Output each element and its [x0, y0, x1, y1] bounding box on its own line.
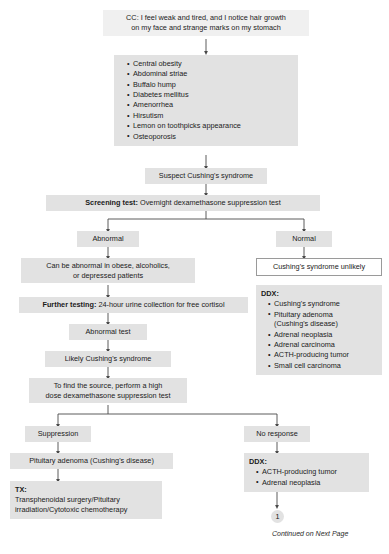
ddx-normal-list: Cushing's syndrome Pituitary adenoma(Cus… — [261, 299, 377, 370]
list-item: Pituitary adenoma(Cushing's disease) — [268, 310, 377, 330]
chief-complaint-line1: CC: I feel weak and tired, and I notice … — [126, 13, 286, 22]
can-be-abnormal-line1: Can be abnormal in obese, alcoholics, — [46, 261, 170, 270]
list-item: Central obesity — [127, 59, 292, 69]
treatment-line1: Transphenoidal surgery/Pituitary — [15, 495, 120, 504]
list-item: Adrenal neoplasia — [256, 478, 364, 488]
list-item: Adrenal carcinoma — [268, 340, 377, 350]
list-item: Lemon on toothpicks appearance — [127, 121, 292, 131]
screening-bold-label: Screening test: — [85, 198, 138, 207]
normal-branch-box: Normal — [276, 231, 332, 247]
suspect-label: Suspect Cushing's syndrome — [159, 171, 253, 180]
ddx-noresponse-header: DDX: — [249, 457, 364, 467]
list-item: Small cell carcinoma — [268, 361, 377, 371]
list-item: Abdominal striae — [127, 69, 292, 79]
page-connector-1: 1 — [271, 510, 284, 523]
list-item: ACTH-producing tumor — [256, 467, 364, 477]
connector-label: 1 — [275, 512, 279, 521]
ddx-normal-header: DDX: — [261, 289, 377, 299]
flowchart-canvas: CC: I feel weak and tired, and I notice … — [0, 0, 389, 554]
list-item: Adrenal neoplasia — [268, 330, 377, 340]
further-testing-box: Further testing: 24-hour urine collectio… — [19, 297, 248, 313]
abnormal-test-label: Abnormal test — [85, 327, 130, 336]
suppression-label: Suppression — [38, 429, 79, 438]
treatment-box: TX: Transphenoidal surgery/Pituitary irr… — [10, 481, 162, 519]
abnormal-test-box: Abnormal test — [69, 324, 147, 340]
pituitary-adenoma-box: Pituitary adenoma (Cushing's disease) — [10, 453, 173, 469]
high-dose-line2: dose dexamethasone suppression test — [46, 391, 171, 400]
symptoms-list: Central obesity Abdominal striae Buffalo… — [120, 59, 292, 141]
chief-complaint-box: CC: I feel weak and tired, and I notice … — [103, 10, 309, 36]
further-testing-bold-label: Further testing: — [42, 300, 96, 309]
can-be-abnormal-line2: or depressed patients — [73, 271, 143, 280]
high-dose-test-box: To find the source, perform a high dose … — [29, 378, 187, 403]
list-item: Diabetes mellitus — [127, 90, 292, 100]
list-item: Osteoporosis — [127, 132, 292, 142]
cushings-unlikely-box: Cushing's syndrome unlikely — [256, 258, 382, 276]
screening-test-box: Screening test: Overnight dexamethasone … — [46, 195, 320, 211]
screening-rest: Overnight dexamethasone suppression test — [138, 198, 281, 207]
continued-on-next-page-note: Continued on Next Page — [272, 530, 348, 537]
likely-cushings-box: Likely Cushing's syndrome — [45, 351, 171, 367]
normal-label: Normal — [292, 234, 316, 243]
chief-complaint-line2: on my face and strange marks on my stoma… — [131, 23, 281, 32]
list-item: Buffalo hump — [127, 80, 292, 90]
no-response-label: No response — [256, 429, 297, 438]
ddx-noresponse-box: DDX: ACTH-producing tumor Adrenal neopla… — [244, 453, 369, 492]
ddx-noresponse-list: ACTH-producing tumor Adrenal neoplasia — [249, 467, 364, 487]
pituitary-label: Pituitary adenoma (Cushing's disease) — [29, 456, 154, 465]
treatment-line2: irradiation/Cytotoxic chemotherapy — [15, 505, 127, 514]
abnormal-branch-box: Abnormal — [77, 231, 139, 247]
suspect-cushings-box: Suspect Cushing's syndrome — [145, 168, 267, 184]
no-response-branch-box: No response — [244, 426, 310, 442]
unlikely-label: Cushing's syndrome unlikely — [273, 262, 365, 271]
high-dose-line1: To find the source, perform a high — [54, 381, 163, 390]
can-be-abnormal-box: Can be abnormal in obese, alcoholics, or… — [21, 258, 195, 283]
further-testing-rest: 24-hour urine collection for free cortis… — [96, 300, 224, 309]
list-item: ACTH-producing tumor — [268, 350, 377, 360]
symptoms-box: Central obesity Abdominal striae Buffalo… — [114, 55, 298, 146]
list-item: Amenorrhea — [127, 100, 292, 110]
suppression-branch-box: Suppression — [25, 426, 91, 442]
treatment-header: TX: — [15, 485, 157, 495]
list-item: Cushing's syndrome — [268, 299, 377, 309]
abnormal-label: Abnormal — [92, 234, 123, 243]
ddx-normal-box: DDX: Cushing's syndrome Pituitary adenom… — [256, 285, 382, 375]
likely-label: Likely Cushing's syndrome — [65, 354, 152, 363]
list-item: Hirsutism — [127, 111, 292, 121]
